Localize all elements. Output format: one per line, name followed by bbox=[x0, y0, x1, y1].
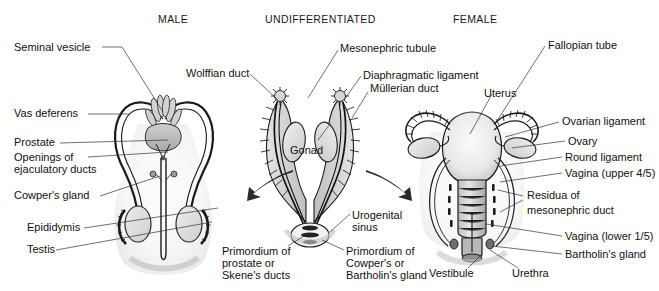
male-tract-illustration bbox=[108, 88, 218, 284]
label-urogenital-sinus-line2: sinus bbox=[352, 221, 378, 233]
label-primordium-prostate-line2: prostate or bbox=[222, 257, 275, 269]
label-mesonephric-tubule: Mesonephric tubule bbox=[340, 42, 436, 54]
label-testis: Testis bbox=[27, 243, 55, 255]
label-primordium-cowpers-line1: Primordium of bbox=[346, 245, 414, 257]
panel-header-male: MALE bbox=[158, 13, 188, 25]
label-mullerian-duct: Müllerian duct bbox=[370, 82, 438, 94]
label-vestibule: Vestibule bbox=[429, 267, 474, 279]
label-uterus: Uterus bbox=[484, 87, 516, 99]
label-ovarian-ligament: Ovarian ligament bbox=[562, 115, 645, 127]
label-vagina-upper: Vagina (upper 4/5) bbox=[565, 167, 655, 179]
label-openings-ejaculatory-ducts-line2: ejaculatory ducts bbox=[14, 163, 97, 175]
panel-header-female: FEMALE bbox=[453, 13, 497, 25]
label-urogenital-sinus-line1: Urogenital bbox=[352, 209, 402, 221]
label-primordium-cowpers-line2: Cowper's or bbox=[346, 257, 404, 269]
label-vas-deferens: Vas deferens bbox=[14, 107, 78, 119]
label-wolffian-duct: Wolffian duct bbox=[186, 67, 249, 79]
label-residua-mesonephric-line1: Residua of bbox=[527, 189, 580, 201]
female-tract-illustration bbox=[402, 92, 542, 274]
label-ovary: Ovary bbox=[568, 135, 597, 147]
label-vagina-lower: Vagina (lower 1/5) bbox=[565, 230, 653, 242]
label-urethra: Urethra bbox=[512, 267, 549, 279]
label-primordium-prostate-line1: Primordium of bbox=[222, 245, 290, 257]
label-prostate: Prostate bbox=[14, 136, 55, 148]
label-cowpers-gland: Cowper's gland bbox=[14, 189, 89, 201]
label-primordium-cowpers-line3: Bartholin's gland bbox=[346, 269, 427, 281]
anatomical-figure: MALE UNDIFFERENTIATED FEMALE bbox=[0, 0, 659, 291]
label-diaphragmatic-ligament: Diaphragmatic ligament bbox=[363, 69, 479, 81]
label-openings-ejaculatory-ducts-line1: Openings of bbox=[14, 151, 73, 163]
label-epididymis: Epididymis bbox=[27, 221, 80, 233]
panel-header-undifferentiated: UNDIFFERENTIATED bbox=[265, 13, 376, 25]
label-seminal-vesicle: Seminal vesicle bbox=[14, 41, 90, 53]
label-round-ligament: Round ligament bbox=[565, 151, 642, 163]
label-residua-mesonephric-line2: mesonephric duct bbox=[527, 204, 614, 216]
label-gonad: Gonad bbox=[290, 144, 323, 156]
label-primordium-prostate-line3: Skene's ducts bbox=[222, 269, 290, 281]
label-fallopian-tube: Fallopian tube bbox=[548, 39, 617, 51]
label-bartholins-gland: Bartholin's gland bbox=[565, 248, 646, 260]
differentiation-arrow-male bbox=[243, 168, 295, 204]
